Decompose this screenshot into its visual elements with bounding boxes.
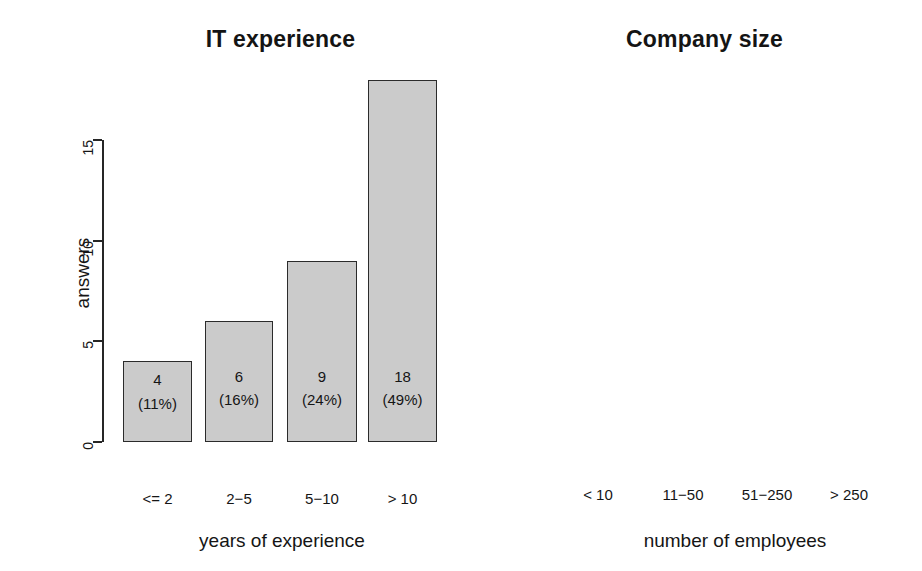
plot-area-left: 4 (11%) 6 (16%) 9 (24%) 18 (49%) (100, 80, 445, 442)
bar: 9 (24%) (287, 261, 357, 442)
y-tick-label: 0 (80, 442, 96, 450)
bar-percent: (11%) (124, 392, 191, 415)
figure-two-bar-charts: IT experience answers 0 5 10 15 4 (11%) … (0, 0, 922, 571)
x-tick-label: > 250 (830, 486, 868, 503)
x-axis-label-right: number of employees (644, 530, 827, 552)
x-tick-label: 51−250 (742, 486, 792, 503)
bar-percent: (49%) (369, 388, 436, 411)
chart-panel-company-size: Company size answers 0 2 4 6 8 10 12 14 … (461, 0, 922, 571)
bar-count: 6 (206, 365, 272, 388)
chart-title-company-size: Company size (474, 26, 922, 53)
x-tick-label: <= 2 (142, 490, 172, 507)
x-tick-label: 2−5 (226, 490, 251, 507)
bar-value-label: 9 (24%) (288, 365, 356, 412)
y-tick-label: 5 (80, 341, 96, 349)
bar-count: 18 (369, 365, 436, 388)
bar: 6 (16%) (205, 321, 273, 442)
bar: 18 (49%) (368, 80, 437, 442)
bar-value-label: 18 (49%) (369, 365, 436, 412)
y-tick-label: 10 (80, 241, 96, 257)
chart-panel-it-experience: IT experience answers 0 5 10 15 4 (11%) … (0, 0, 461, 571)
bar-value-label: 6 (16%) (206, 365, 272, 412)
bar: 4 (11%) (123, 361, 192, 442)
chart-title-it-experience: IT experience (50, 26, 511, 53)
bar-percent: (24%) (288, 388, 356, 411)
x-tick-label: 11−50 (662, 486, 703, 503)
x-tick-label: < 10 (583, 486, 613, 503)
bar-percent: (16%) (206, 388, 272, 411)
x-tick-label: 5−10 (305, 490, 339, 507)
bar-count: 9 (288, 365, 356, 388)
bar-value-label: 4 (11%) (124, 368, 191, 415)
x-axis-label-left: years of experience (199, 530, 365, 552)
bar-count: 4 (124, 368, 191, 391)
y-tick-label: 15 (80, 140, 96, 156)
x-tick-label: > 10 (388, 490, 418, 507)
